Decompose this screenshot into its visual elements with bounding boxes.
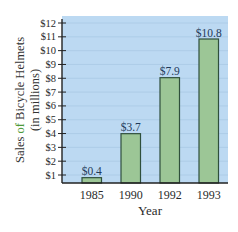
bar bbox=[160, 78, 180, 183]
y-tick-label: $9 bbox=[46, 59, 57, 70]
bar-value-label: $3.7 bbox=[121, 121, 141, 133]
bar-1992: $7.9 bbox=[160, 65, 180, 183]
x-tick-label: 1990 bbox=[119, 188, 143, 202]
y-tick-label: $6 bbox=[46, 100, 57, 111]
x-axis-title: Year bbox=[138, 203, 163, 218]
x-tick-label: 1985 bbox=[80, 188, 104, 202]
y-tick-label: $5 bbox=[46, 114, 57, 125]
x-tick-label: 1993 bbox=[197, 188, 221, 202]
bar-1993: $10.8 bbox=[196, 27, 222, 184]
bar bbox=[82, 178, 102, 183]
bar-1985: $0.4 bbox=[82, 165, 102, 183]
y-tick-label: $8 bbox=[46, 73, 57, 84]
x-axis-ticks: 1985199019921993 bbox=[80, 188, 221, 202]
bar-value-label: $0.4 bbox=[82, 165, 102, 177]
y-tick-label: $10 bbox=[40, 45, 56, 56]
bar-1990: $3.7 bbox=[121, 121, 141, 183]
y-tick-label: $12 bbox=[40, 18, 56, 29]
bar-value-label: $7.9 bbox=[160, 65, 180, 77]
x-tick-label: 1992 bbox=[158, 188, 182, 202]
y-tick-label: $2 bbox=[46, 156, 57, 167]
y-tick-label: $1 bbox=[46, 170, 57, 181]
y-tick-label: $4 bbox=[46, 128, 57, 139]
bar bbox=[121, 134, 141, 183]
y-tick-label: $3 bbox=[46, 142, 57, 153]
bar-value-label: $10.8 bbox=[196, 27, 222, 39]
bar-chart: $0.4$3.7$7.9$10.8 $1$2$3$4$5$6$7$8$9$10$… bbox=[0, 0, 238, 232]
y-tick-label: $11 bbox=[41, 31, 56, 42]
y-tick-label: $7 bbox=[46, 87, 57, 98]
bar bbox=[199, 39, 219, 183]
